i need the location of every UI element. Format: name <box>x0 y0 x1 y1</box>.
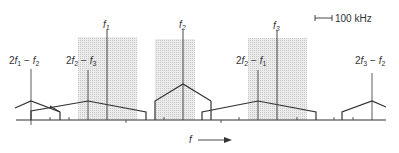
label-2f3-f2: 2f3 − f2 <box>355 55 385 67</box>
label-f2: f2 <box>179 19 186 31</box>
label-2f1-f2: 2f1 − f2 <box>9 55 39 67</box>
spectrum-envelopes <box>15 84 386 120</box>
label-f3: f3 <box>273 20 280 32</box>
channel-band-f2 <box>155 39 195 120</box>
envelope-edge-left <box>50 106 60 120</box>
label-2f2-f3: 2f2 − f3 <box>66 55 96 67</box>
channel-band-f1 <box>78 37 137 120</box>
frequency-arrow-icon <box>198 137 232 143</box>
scale-bar-label: 100 kHz <box>335 13 372 24</box>
envelope-2f3-f2 <box>342 101 386 120</box>
scale-bar <box>315 15 332 21</box>
channel-band-f3 <box>248 38 307 120</box>
label-2f2-f1: 2f2 − f1 <box>236 55 266 67</box>
intermodulation-spectrum-diagram: f1 f2 f3 2f1 − f2 2f2 − f3 2f2 − f1 2f3 … <box>0 0 399 153</box>
axis-label-f: f <box>189 134 193 145</box>
label-f1: f1 <box>103 19 110 31</box>
